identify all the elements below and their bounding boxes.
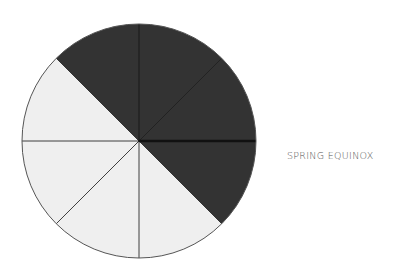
equinox-pie-diagram [0, 0, 393, 277]
diagram-label: SPRING EQUINOX [287, 150, 374, 161]
